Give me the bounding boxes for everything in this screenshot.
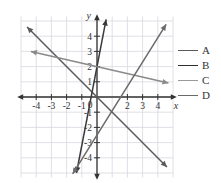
legend-label-d: D	[202, 90, 210, 101]
legend-label-c: C	[202, 75, 209, 86]
svg-text:4: 4	[87, 32, 92, 42]
legend-label-a: A	[202, 45, 210, 56]
legend-item-c[interactable]: C	[178, 73, 221, 88]
svg-text:3: 3	[140, 101, 145, 111]
legend-swatch-a	[178, 50, 198, 51]
axis-titles: xy	[86, 10, 179, 111]
legend-swatch-c	[178, 80, 198, 81]
svg-text:y: y	[86, 10, 92, 21]
svg-text:3: 3	[87, 47, 92, 57]
legend-swatch-d	[178, 95, 198, 96]
svg-text:1: 1	[87, 77, 92, 87]
data-line-b	[75, 19, 108, 173]
svg-text:2: 2	[125, 101, 130, 111]
svg-text:-2: -2	[63, 101, 71, 111]
svg-text:4: 4	[155, 101, 160, 111]
legend-item-d[interactable]: D	[178, 88, 221, 103]
svg-text:-3: -3	[47, 101, 55, 111]
legend-item-b[interactable]: B	[178, 58, 221, 73]
legend-item-a[interactable]: A	[178, 43, 221, 58]
figure-root: -4-3-2-12344321-1-2-3-40 xy A B C D	[0, 0, 221, 183]
legend-label-b: B	[202, 60, 209, 71]
legend: A B C D	[178, 43, 221, 103]
svg-text:2: 2	[87, 62, 92, 72]
legend-swatch-b	[178, 65, 198, 66]
svg-text:-4: -4	[32, 101, 40, 111]
svg-text:-3: -3	[84, 138, 92, 148]
